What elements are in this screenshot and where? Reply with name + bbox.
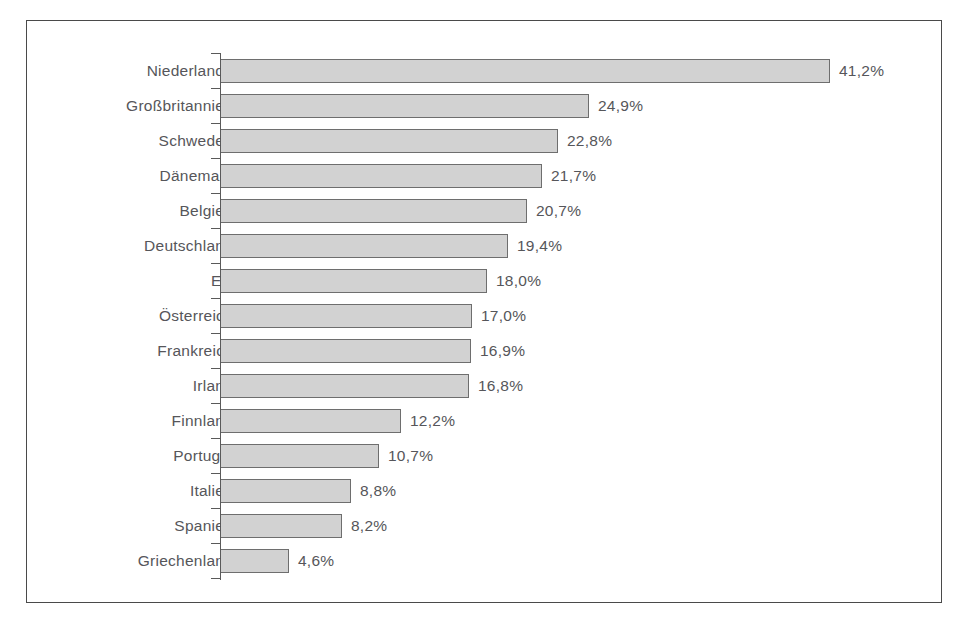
bar[interactable] — [221, 374, 469, 398]
chart-frame: Niederlande41,2%Großbritannien24,9%Schwe… — [26, 20, 942, 603]
bar[interactable] — [221, 164, 542, 188]
bar-category-label: Finnland — [0, 403, 233, 438]
bar-category-label: Belgien — [0, 193, 233, 228]
bar-row[interactable]: Niederlande41,2% — [27, 53, 943, 88]
bar-value-label: 20,7% — [527, 199, 581, 223]
bar-container: 10,7% — [221, 444, 379, 468]
bar-container: 17,0% — [221, 304, 472, 328]
bar-category-label: Portugal — [0, 438, 233, 473]
bar-row[interactable]: Deutschland19,4% — [27, 228, 943, 263]
bar-value-label: 10,7% — [379, 444, 433, 468]
bar-row[interactable]: Spanien8,2% — [27, 508, 943, 543]
bar-value-label: 4,6% — [289, 549, 334, 573]
bar-row[interactable]: EU18,0% — [27, 263, 943, 298]
bar-row[interactable]: Griechenland4,6% — [27, 543, 943, 578]
bar-value-label: 19,4% — [508, 234, 562, 258]
bar[interactable] — [221, 199, 527, 223]
bar-container: 19,4% — [221, 234, 508, 258]
bar[interactable] — [221, 479, 351, 503]
bar-value-label: 8,8% — [351, 479, 396, 503]
bar-row[interactable]: Großbritannien24,9% — [27, 88, 943, 123]
bar-category-label: Schweden — [0, 123, 233, 158]
bar[interactable] — [221, 304, 472, 328]
bar-value-label: 21,7% — [542, 164, 596, 188]
bar-category-label: Frankreich — [0, 333, 233, 368]
bar[interactable] — [221, 129, 558, 153]
bar-value-label: 8,2% — [342, 514, 387, 538]
bar-container: 21,7% — [221, 164, 542, 188]
axis-tick — [211, 578, 221, 579]
bar[interactable] — [221, 549, 289, 573]
bar-container: 8,8% — [221, 479, 351, 503]
bar-value-label: 41,2% — [830, 59, 884, 83]
bar-container: 16,9% — [221, 339, 471, 363]
bar[interactable] — [221, 94, 589, 118]
bar-row[interactable]: Belgien20,7% — [27, 193, 943, 228]
bar-container: 16,8% — [221, 374, 469, 398]
bar-value-label: 24,9% — [589, 94, 643, 118]
bar-row[interactable]: Portugal10,7% — [27, 438, 943, 473]
bar-value-label: 12,2% — [401, 409, 455, 433]
bar-category-label: Griechenland — [0, 543, 233, 578]
bar-container: 24,9% — [221, 94, 589, 118]
bar[interactable] — [221, 444, 379, 468]
bar[interactable] — [221, 514, 342, 538]
bar-value-label: 22,8% — [558, 129, 612, 153]
bar-row[interactable]: Frankreich16,9% — [27, 333, 943, 368]
bar-value-label: 17,0% — [472, 304, 526, 328]
bar-container: 22,8% — [221, 129, 558, 153]
bar-container: 20,7% — [221, 199, 527, 223]
bar-category-label: Dänemark — [0, 158, 233, 193]
bar-container: 4,6% — [221, 549, 289, 573]
bar-category-label: EU — [0, 263, 233, 298]
bar-value-label: 16,8% — [469, 374, 523, 398]
bar-container: 18,0% — [221, 269, 487, 293]
bar-category-label: Österreich — [0, 298, 233, 333]
bar-row[interactable]: Italien8,8% — [27, 473, 943, 508]
bar-row[interactable]: Dänemark21,7% — [27, 158, 943, 193]
bar-value-label: 16,9% — [471, 339, 525, 363]
plot-area: Niederlande41,2%Großbritannien24,9%Schwe… — [27, 21, 943, 604]
bar[interactable] — [221, 59, 830, 83]
bar-value-label: 18,0% — [487, 269, 541, 293]
bar-row[interactable]: Österreich17,0% — [27, 298, 943, 333]
bar-container: 41,2% — [221, 59, 830, 83]
bar-category-label: Niederlande — [0, 53, 233, 88]
bar-category-label: Irland — [0, 368, 233, 403]
bar-category-label: Deutschland — [0, 228, 233, 263]
bar[interactable] — [221, 269, 487, 293]
bar[interactable] — [221, 234, 508, 258]
bar-container: 8,2% — [221, 514, 342, 538]
bar[interactable] — [221, 339, 471, 363]
bar-row[interactable]: Schweden22,8% — [27, 123, 943, 158]
bar[interactable] — [221, 409, 401, 433]
bar-category-label: Spanien — [0, 508, 233, 543]
bar-category-label: Großbritannien — [0, 88, 233, 123]
bar-row[interactable]: Finnland12,2% — [27, 403, 943, 438]
bar-row[interactable]: Irland16,8% — [27, 368, 943, 403]
chart-page: Niederlande41,2%Großbritannien24,9%Schwe… — [0, 0, 961, 619]
bar-category-label: Italien — [0, 473, 233, 508]
bar-container: 12,2% — [221, 409, 401, 433]
